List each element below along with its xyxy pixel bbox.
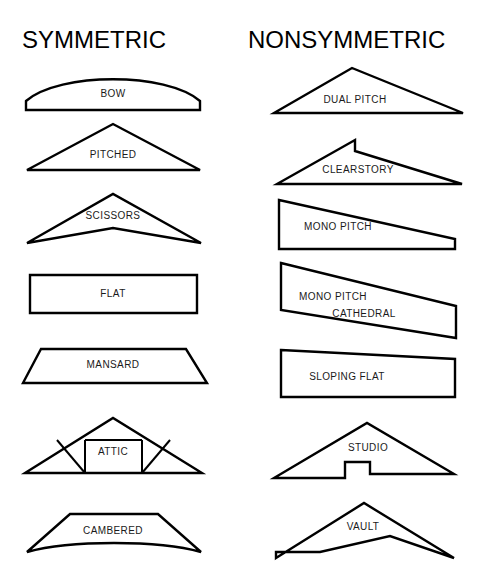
truss-label-line-2: CATHEDRAL (332, 308, 395, 319)
truss-label: BOW (100, 88, 125, 99)
truss-label: SLOPING FLAT (309, 371, 385, 382)
truss-sloping-flat: SLOPING FLAT (281, 350, 455, 397)
roof-truss-diagram: SYMMETRICNONSYMMETRIC BOWPITCHEDSCISSORS… (0, 0, 487, 574)
truss-label: SCISSORS (86, 210, 141, 221)
truss-label: FLAT (100, 288, 125, 299)
truss-label: VAULT (347, 521, 380, 532)
truss-mansard: MANSARD (23, 349, 207, 383)
truss-label: MONO PITCH (304, 221, 372, 232)
truss-label: PITCHED (90, 149, 137, 160)
truss-label: STUDIO (348, 442, 388, 453)
column-heading-nonsymmetric: NONSYMMETRIC (248, 26, 445, 53)
truss-label: CAMBERED (83, 525, 143, 536)
truss-label: ATTIC (98, 446, 128, 457)
truss-label: MONO PITCH (299, 291, 367, 302)
truss-flat: FLAT (30, 275, 197, 313)
truss-label: MANSARD (87, 359, 140, 370)
truss-diagram-canvas: SYMMETRICNONSYMMETRIC BOWPITCHEDSCISSORS… (0, 0, 487, 574)
truss-label: CLEARSTORY (322, 164, 393, 175)
truss-label: DUAL PITCH (323, 94, 386, 105)
column-heading-symmetric: SYMMETRIC (22, 26, 166, 53)
